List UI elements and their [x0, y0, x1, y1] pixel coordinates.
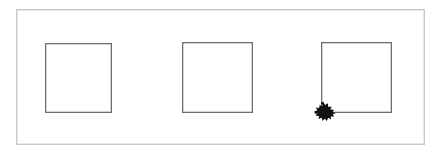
- diagram-svg: [0, 0, 441, 154]
- ink-blot-speck-top: [321, 102, 324, 105]
- square-group: [46, 43, 392, 113]
- ink-blot-core: [318, 106, 328, 116]
- diagram-canvas: black ink blot: [0, 0, 441, 154]
- square-3[interactable]: [322, 43, 392, 113]
- square-2[interactable]: [183, 43, 253, 113]
- ink-blot-speck-bottom: [323, 117, 325, 119]
- ink-blot-speck-left: [315, 111, 318, 114]
- ink-blot-speck-right: [330, 110, 333, 113]
- square-1[interactable]: [46, 44, 112, 113]
